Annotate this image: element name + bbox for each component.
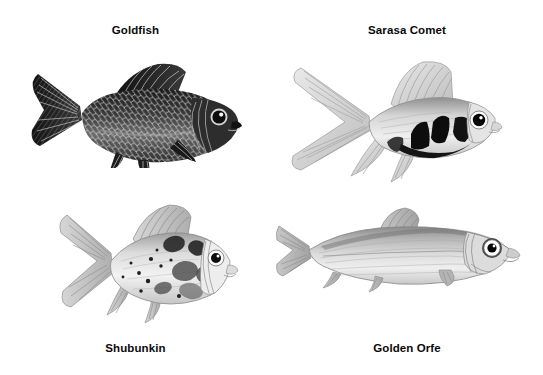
figure-goldfish: Goldfish	[0, 0, 271, 188]
shubunkin-caudal-fin	[60, 215, 113, 307]
orfe-caudal-fin	[276, 226, 311, 276]
illustration-plate: Goldfish	[0, 0, 543, 375]
goldfish-caudal-fin	[32, 74, 82, 146]
caption-golden-orfe: Golden Orfe	[271, 342, 543, 354]
goldfish-svg	[28, 58, 244, 168]
sarasa-comet-svg	[283, 60, 503, 188]
shubunkin-illustration	[53, 203, 243, 323]
caption-sarasa-comet: Sarasa Comet	[271, 24, 543, 36]
shubunkin-head	[201, 239, 239, 294]
sarasa-caudal-fin	[292, 68, 371, 170]
figure-golden-orfe: Golden Orfe	[271, 188, 543, 375]
golden-orfe-illustration	[275, 206, 523, 294]
orfe-eye	[482, 238, 502, 258]
shubunkin-svg	[53, 203, 243, 323]
goldfish-eye	[211, 109, 228, 126]
goldfish-illustration	[28, 58, 244, 168]
sarasa-eye	[470, 111, 488, 129]
caption-shubunkin: Shubunkin	[0, 342, 271, 354]
shubunkin-eye	[208, 250, 224, 266]
caption-goldfish: Goldfish	[0, 24, 271, 36]
golden-orfe-svg	[275, 206, 523, 294]
figure-sarasa-comet: Sarasa Comet	[271, 0, 543, 195]
sarasa-comet-illustration	[283, 60, 503, 188]
figure-shubunkin: Shubunkin	[0, 188, 271, 375]
